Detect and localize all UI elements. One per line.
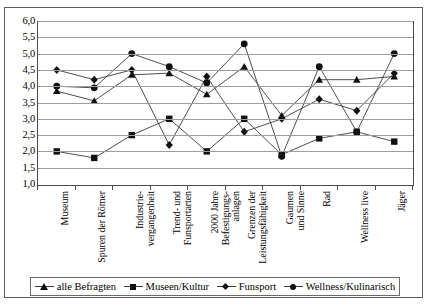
legend-marker-triangle-icon [35, 282, 54, 291]
x-axis-tick [75, 186, 76, 190]
gridline [38, 86, 413, 87]
data-point-diamond [166, 141, 173, 149]
gridline [38, 135, 413, 136]
gridline [38, 151, 413, 152]
legend-marker-square-icon [124, 282, 143, 291]
y-axis-tick-label: 2,0 [22, 146, 35, 156]
y-axis-tick-label: 6,0 [22, 16, 35, 26]
x-axis-tick-label: Jäger [397, 191, 408, 273]
x-axis-tick [225, 186, 226, 190]
x-axis-labels: MuseumSpuren der RömerIndustrie- vergang… [37, 193, 414, 275]
legend-item[interactable]: alle Befragten [35, 281, 116, 292]
chart-legend: alle BefragtenMuseen/KulturFunsportWelln… [30, 277, 400, 296]
x-axis-tick [150, 186, 151, 190]
legend-label: Wellness/Kulinarisch [306, 281, 396, 292]
y-axis-tick-label: 4,0 [22, 81, 35, 91]
gridline [38, 103, 413, 104]
data-point-circle [278, 153, 285, 160]
data-point-diamond [91, 76, 98, 84]
x-axis-tick [337, 186, 338, 190]
gridline [38, 21, 413, 22]
x-axis-tick-label: 2000 Jahre Befestigungs- anlagen [210, 191, 242, 273]
data-point-square [316, 135, 322, 141]
x-axis-tick-label: Trend- und Funsportarten [172, 191, 193, 273]
legend-item[interactable]: Wellness/Kulinarisch [284, 281, 396, 292]
data-point-circle [241, 40, 248, 47]
x-axis-tick [112, 186, 113, 190]
y-axis-tick-label: 1,0 [22, 179, 35, 189]
gridline [38, 37, 413, 38]
gridline [38, 119, 413, 120]
gridline [38, 54, 413, 55]
x-axis-tick-label: Industrie- vergangenheit [135, 191, 156, 273]
y-axis-tick-label: 5,0 [22, 49, 35, 59]
data-point-triangle [203, 91, 211, 98]
legend-marker-circle-icon [284, 282, 303, 291]
y-axis-tick-label: 3,5 [22, 98, 35, 108]
y-axis-tick-label: 3,0 [22, 114, 35, 124]
x-axis-tick [300, 186, 301, 190]
series-line [57, 70, 395, 145]
y-axis-labels: 6,05,55,04,54,03,53,02,52,01,51,0 [4, 7, 35, 189]
x-axis-tick [37, 186, 38, 190]
gridline [38, 70, 413, 71]
x-axis-tick-label: Grenzen der Leistungsfähigkeit [247, 191, 268, 273]
y-axis-tick-label: 2,5 [22, 130, 35, 140]
y-axis-tick-label: 5,5 [22, 32, 35, 42]
legend-label: Funsport [239, 281, 276, 292]
plot-area [37, 21, 414, 186]
x-axis-tick [262, 186, 263, 190]
x-axis-tick [412, 186, 413, 190]
gridline [38, 168, 413, 169]
legend-item[interactable]: Museen/Kultur [124, 281, 210, 292]
data-point-diamond [203, 72, 210, 80]
legend-label: Museen/Kultur [146, 281, 210, 292]
chart-area: 6,05,55,04,54,03,53,02,52,01,51,0 Museum… [4, 7, 423, 298]
data-point-square [391, 138, 397, 144]
x-axis-tick-label: Museum [60, 191, 71, 273]
x-axis-tick-label: Gaumen und Sinne [285, 191, 306, 273]
series-line [57, 44, 395, 156]
x-axis-tick-label: Rad [322, 191, 333, 273]
data-point-square [91, 155, 97, 161]
y-axis-tick-label: 1,5 [22, 163, 35, 173]
x-axis-tick [187, 186, 188, 190]
legend-marker-diamond-icon [217, 282, 236, 291]
data-point-triangle [240, 63, 248, 70]
x-axis-tick [375, 186, 376, 190]
chart-figure: 6,05,55,04,54,03,53,02,52,01,51,0 Museum… [0, 0, 431, 305]
legend-item[interactable]: Funsport [217, 281, 276, 292]
y-axis-tick-label: 4,5 [22, 65, 35, 75]
legend-label: alle Befragten [57, 281, 116, 292]
x-axis-tick-label: Wellness live [360, 191, 371, 273]
x-axis-tick-label: Spuren der Römer [97, 191, 108, 273]
